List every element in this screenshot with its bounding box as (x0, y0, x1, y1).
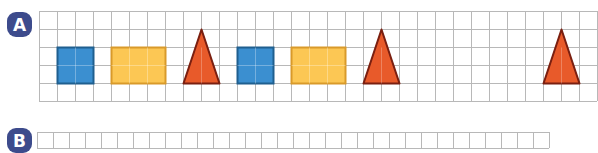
section-a-label: A (13, 15, 26, 35)
grid-b (37, 132, 550, 149)
section-a-badge: A (7, 12, 32, 37)
section-b-label: B (13, 131, 26, 151)
section-b-badge: B (7, 128, 32, 153)
grid-a (39, 11, 598, 102)
